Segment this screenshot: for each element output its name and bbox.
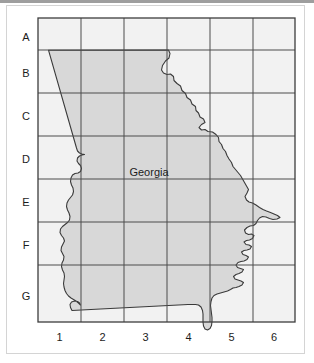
- state-name-label: Georgia: [129, 166, 169, 178]
- column-label-1: 1: [56, 331, 62, 343]
- map-svg: A B C D E F G 1 2 3 4 5 6 Georgia: [0, 0, 314, 363]
- row-label-f: F: [23, 239, 30, 251]
- row-label-e: E: [22, 196, 29, 208]
- column-label-2: 2: [99, 331, 105, 343]
- row-label-d: D: [22, 153, 30, 165]
- column-label-5: 5: [228, 331, 234, 343]
- row-label-b: B: [22, 67, 29, 79]
- column-label-3: 3: [142, 331, 148, 343]
- row-label-g: G: [22, 290, 31, 302]
- row-label-a: A: [22, 31, 30, 43]
- georgia-grid-map: A B C D E F G 1 2 3 4 5 6 Georgia: [0, 0, 314, 363]
- row-label-c: C: [22, 110, 30, 122]
- column-label-4: 4: [185, 331, 191, 343]
- column-label-6: 6: [271, 331, 277, 343]
